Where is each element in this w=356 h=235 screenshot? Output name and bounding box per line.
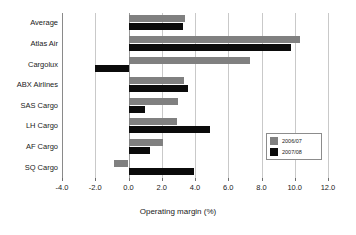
x-tick-label: 6.0 bbox=[223, 183, 233, 192]
y-axis-label: ABX Airlines bbox=[17, 80, 58, 89]
bar bbox=[129, 23, 184, 30]
x-tick-mark bbox=[228, 178, 229, 181]
bar bbox=[129, 57, 250, 64]
bar-group bbox=[62, 96, 328, 117]
bar bbox=[129, 44, 292, 51]
bar bbox=[129, 15, 186, 22]
x-tick-mark bbox=[129, 178, 130, 181]
x-tick-label: 0.0 bbox=[123, 183, 133, 192]
bar bbox=[129, 36, 300, 43]
x-tick-mark bbox=[62, 178, 63, 181]
legend-item-2007-08: 2007/08 bbox=[270, 147, 318, 157]
bar bbox=[129, 85, 189, 92]
y-axis-label: Average bbox=[30, 18, 58, 27]
x-tick-label: 4.0 bbox=[190, 183, 200, 192]
bar-group bbox=[62, 75, 328, 96]
x-axis-title: Operating margin (%) bbox=[0, 207, 356, 216]
bar bbox=[129, 98, 179, 105]
y-axis-label: SQ Cargo bbox=[25, 163, 58, 172]
bar bbox=[129, 118, 177, 125]
bar-group bbox=[62, 34, 328, 55]
y-axis-label: SAS Cargo bbox=[20, 101, 58, 110]
y-axis-category-labels: AverageAtlas AirCargoluxABX AirlinesSAS … bbox=[0, 13, 58, 178]
bar bbox=[129, 77, 185, 84]
chart-legend: 2006/07 2007/08 bbox=[266, 133, 322, 160]
x-tick-mark bbox=[195, 178, 196, 181]
legend-label-2006-07: 2006/07 bbox=[282, 138, 302, 145]
x-tick-mark bbox=[295, 178, 296, 181]
bar bbox=[129, 126, 210, 133]
x-tick-label: 2.0 bbox=[157, 183, 167, 192]
legend-swatch-icon-2007-08 bbox=[270, 148, 278, 156]
y-axis-label: AF Cargo bbox=[26, 142, 58, 151]
y-axis-label: LH Cargo bbox=[26, 121, 58, 130]
x-tick-mark bbox=[328, 178, 329, 181]
y-axis-label: Cargolux bbox=[28, 60, 58, 69]
bar bbox=[114, 160, 129, 167]
x-tick-label: 8.0 bbox=[256, 183, 266, 192]
x-tick-mark bbox=[162, 178, 163, 181]
bar bbox=[129, 106, 146, 113]
legend-item-2006-07: 2006/07 bbox=[270, 136, 318, 146]
bar-group bbox=[62, 157, 328, 178]
x-tick-label: 10.0 bbox=[287, 183, 302, 192]
bar-group bbox=[62, 13, 328, 34]
x-tick-mark bbox=[95, 178, 96, 181]
operating-margin-bar-chart: AverageAtlas AirCargoluxABX AirlinesSAS … bbox=[0, 0, 356, 235]
x-tick-label: -4.0 bbox=[56, 183, 69, 192]
bar bbox=[129, 139, 164, 146]
y-axis-label: Atlas Air bbox=[30, 39, 58, 48]
legend-swatch-icon-2006-07 bbox=[270, 137, 278, 145]
x-tick-label: -2.0 bbox=[89, 183, 102, 192]
gridline-12 bbox=[328, 13, 329, 178]
bar bbox=[129, 147, 151, 154]
x-tick-label: 12.0 bbox=[321, 183, 336, 192]
bar bbox=[95, 65, 128, 72]
x-tick-mark bbox=[262, 178, 263, 181]
bar bbox=[129, 168, 195, 175]
legend-label-2007-08: 2007/08 bbox=[282, 149, 302, 156]
x-axis-ticks: -4.0-2.00.02.04.06.08.010.012.0 bbox=[62, 178, 328, 194]
bar-group bbox=[62, 54, 328, 75]
